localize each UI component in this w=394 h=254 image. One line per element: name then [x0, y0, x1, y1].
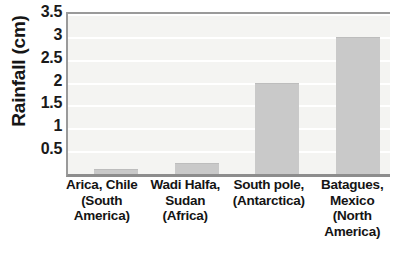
bar — [175, 163, 219, 174]
x-axis-tick-label-line: (Africa) — [144, 208, 228, 224]
y-axis-tick-label: 3.5 — [26, 4, 62, 20]
bar — [255, 83, 299, 174]
x-axis-tick-label: South pole,(Antarctica) — [227, 177, 311, 208]
y-axis-tick-label: 3 — [26, 27, 62, 43]
x-axis-tick-label-line: (Antarctica) — [227, 193, 311, 209]
x-axis-tick-label: Batagues,Mexico(NorthAmerica) — [311, 177, 394, 239]
y-axis-tick-labels: 3.532.521.510.5 — [26, 0, 62, 180]
x-axis-tick-label: Arica, Chile(SouthAmerica) — [60, 177, 144, 224]
bars-layer — [68, 14, 390, 174]
rainfall-bar-chart: Rainfall (cm) 3.532.521.510.5 Arica, Chi… — [0, 0, 394, 254]
y-axis-tick-label: 2 — [26, 73, 62, 89]
y-axis-tick-label: 1 — [26, 118, 62, 134]
x-axis-tick-label-line: South pole, — [227, 177, 311, 193]
plot-area — [66, 12, 390, 177]
y-axis-tick-label: 0.5 — [26, 141, 62, 157]
bar — [94, 169, 138, 174]
y-axis-tick-label: 1.5 — [26, 95, 62, 111]
y-axis-tick-label: 2.5 — [26, 50, 62, 66]
x-axis-tick-label-line: Wadi Halfa, — [144, 177, 228, 193]
x-axis-tick-labels: Arica, Chile(SouthAmerica)Wadi Halfa,Sud… — [60, 177, 394, 254]
x-axis-tick-label-line: Sudan — [144, 193, 228, 209]
x-axis-tick-label-line: America) — [311, 224, 394, 240]
x-axis-tick-label-line: Mexico — [311, 193, 394, 209]
x-axis-tick-label-line: (North — [311, 208, 394, 224]
x-axis-tick-label-line: (South — [60, 193, 144, 209]
x-axis-tick-label: Wadi Halfa,Sudan(Africa) — [144, 177, 228, 224]
x-axis-tick-label-line: Arica, Chile — [60, 177, 144, 193]
x-axis-tick-label-line: America) — [60, 208, 144, 224]
x-axis-tick-label-line: Batagues, — [311, 177, 394, 193]
bar — [336, 37, 380, 174]
